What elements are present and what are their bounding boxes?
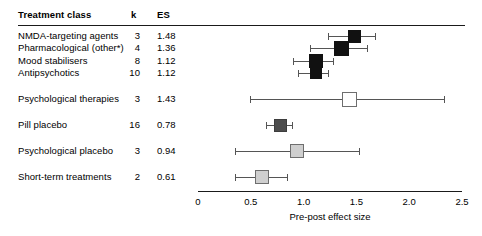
header-rule [18,25,465,26]
row-label: Pill placebo [18,119,67,130]
x-axis-tick-label: 0.5 [244,196,257,207]
effect-size-marker [348,30,361,43]
x-axis-tick-label: 0 [195,196,200,207]
row-es-value: 1.12 [157,55,176,66]
confidence-interval-cap [298,70,299,77]
row-label: Antipsychotics [18,67,79,78]
row-es-value: 1.12 [157,67,176,78]
forest-plot-figure: Treatment class k ES NMDA-targeting agen… [0,0,482,236]
row-label: Short-term treatments [18,171,111,182]
confidence-interval-cap [375,33,376,40]
confidence-interval-cap [333,58,334,65]
confidence-interval-cap [293,58,294,65]
row-k-value: 10 [124,67,140,78]
x-axis-tick-label: 2.5 [455,196,468,207]
confidence-interval-cap [359,148,360,155]
x-axis-line [198,191,462,192]
row-k-value: 3 [124,93,140,104]
row-k-value: 3 [124,145,140,156]
column-header-k: k [131,9,136,20]
row-es-value: 1.48 [157,30,176,41]
effect-size-marker [342,92,357,107]
confidence-interval-cap [292,122,293,129]
effect-size-marker [310,67,322,79]
x-axis-tick-label: 1.5 [350,196,363,207]
row-k-value: 16 [124,119,140,130]
effect-size-marker [290,144,304,158]
row-es-value: 0.61 [157,171,176,182]
row-label: Psychological placebo [18,145,113,156]
confidence-interval-cap [367,45,368,52]
row-label: NMDA-targeting agents [18,30,118,41]
row-label: Pharmacological (other*) [18,42,124,53]
confidence-interval-cap [235,148,236,155]
x-axis-tick-label: 2.0 [403,196,416,207]
column-header-es: ES [157,9,170,20]
row-k-value: 3 [124,30,140,41]
confidence-interval-cap [287,174,288,181]
column-header-treatment-class: Treatment class [18,9,91,20]
effect-size-marker [334,41,349,56]
confidence-interval-cap [235,174,236,181]
confidence-interval-cap [266,122,267,129]
confidence-interval-cap [328,33,329,40]
row-k-value: 8 [124,55,140,66]
row-es-value: 0.94 [157,145,176,156]
row-label: Psychological therapies [18,93,119,104]
x-axis-title: Pre-post effect size [289,211,370,222]
row-es-value: 0.78 [157,119,176,130]
x-axis-tick-label: 1.0 [297,196,310,207]
row-label: Mood stabilisers [18,55,87,66]
row-es-value: 1.36 [157,42,176,53]
confidence-interval-cap [328,70,329,77]
effect-size-marker [309,54,323,68]
row-k-value: 4 [124,42,140,53]
row-k-value: 2 [124,171,140,182]
confidence-interval-cap [444,96,445,103]
effect-size-marker [274,119,287,132]
confidence-interval-cap [250,96,251,103]
row-es-value: 1.43 [157,93,176,104]
confidence-interval-cap [310,45,311,52]
effect-size-marker [255,170,269,184]
